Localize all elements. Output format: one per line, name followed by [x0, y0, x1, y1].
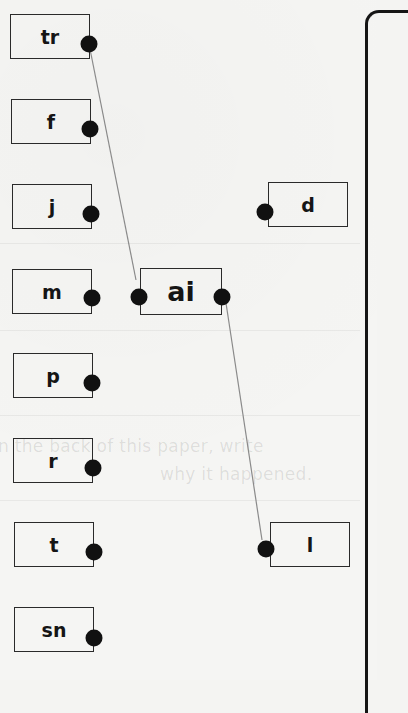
coda-box-l[interactable]: l: [270, 522, 350, 567]
coda-label: d: [301, 194, 315, 216]
vowel-box-ai[interactable]: ai: [140, 268, 222, 315]
connector-dot-f[interactable]: [82, 121, 99, 138]
onset-box-tr[interactable]: tr: [10, 14, 90, 59]
connection-ai-to-l: [226, 303, 262, 540]
connector-dot-l[interactable]: [258, 541, 275, 558]
coda-label: l: [307, 534, 314, 556]
onset-label: m: [42, 281, 62, 303]
connector-dot-d[interactable]: [257, 204, 274, 221]
connector-dot-t[interactable]: [86, 544, 103, 561]
connector-dot-m[interactable]: [84, 290, 101, 307]
connector-dot-tr[interactable]: [81, 36, 98, 53]
onset-box-r[interactable]: r: [13, 438, 93, 483]
onset-box-m[interactable]: m: [12, 269, 92, 314]
onset-label: f: [47, 111, 55, 133]
onset-box-j[interactable]: j: [12, 184, 92, 229]
connector-dot-ai-right[interactable]: [214, 289, 231, 306]
connector-dot-sn[interactable]: [86, 630, 103, 647]
onset-label: tr: [41, 26, 59, 48]
onset-label: t: [49, 534, 58, 556]
onset-box-t[interactable]: t: [14, 522, 94, 567]
onset-label: j: [49, 196, 56, 218]
connector-dot-ai-left[interactable]: [131, 289, 148, 306]
onset-label: p: [46, 365, 60, 387]
connection-tr-to-ai: [89, 44, 136, 280]
onset-label: r: [48, 450, 57, 472]
onset-box-sn[interactable]: sn: [14, 607, 94, 652]
connector-dot-r[interactable]: [85, 460, 102, 477]
coda-box-d[interactable]: d: [268, 182, 348, 227]
vowel-label: ai: [167, 276, 194, 307]
connector-dot-j[interactable]: [83, 206, 100, 223]
connector-dot-p[interactable]: [84, 375, 101, 392]
onset-label: sn: [42, 619, 67, 641]
onset-box-p[interactable]: p: [13, 353, 93, 398]
onset-box-f[interactable]: f: [11, 99, 91, 144]
